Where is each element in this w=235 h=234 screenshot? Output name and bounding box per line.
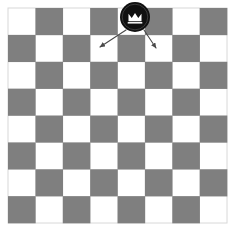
board-square-dark[interactable] xyxy=(90,116,118,143)
board-square-dark[interactable] xyxy=(145,62,173,89)
board-square-dark[interactable] xyxy=(118,89,146,116)
board-square-dark[interactable] xyxy=(63,89,91,116)
board-canvas xyxy=(0,0,235,234)
board-square-dark[interactable] xyxy=(63,196,91,223)
board-square-dark[interactable] xyxy=(63,142,91,169)
crown-base-icon xyxy=(128,22,143,24)
board-square-dark[interactable] xyxy=(90,169,118,196)
board-square-dark[interactable] xyxy=(200,116,228,143)
board-square-dark[interactable] xyxy=(145,169,173,196)
board-square-dark[interactable] xyxy=(145,116,173,143)
board-square-dark[interactable] xyxy=(8,35,36,62)
checkers-diagram: Checkers king diagonal move diagram King… xyxy=(0,0,235,234)
board-square-dark[interactable] xyxy=(172,35,200,62)
board-square-dark[interactable] xyxy=(35,116,63,143)
board-square-dark[interactable] xyxy=(200,62,228,89)
board-square-dark[interactable] xyxy=(118,196,146,223)
board-square-dark[interactable] xyxy=(172,196,200,223)
board-square-dark[interactable] xyxy=(35,62,63,89)
board-square-dark[interactable] xyxy=(90,8,118,35)
board-square-dark[interactable] xyxy=(118,142,146,169)
board-square-dark[interactable] xyxy=(35,8,63,35)
board-square-dark[interactable] xyxy=(200,8,228,35)
board-square-dark[interactable] xyxy=(172,142,200,169)
board-square-dark[interactable] xyxy=(8,89,36,116)
king-checker-piece[interactable] xyxy=(120,2,150,32)
board-square-dark[interactable] xyxy=(172,89,200,116)
board-square-dark[interactable] xyxy=(118,35,146,62)
board-square-dark[interactable] xyxy=(63,35,91,62)
board-square-dark[interactable] xyxy=(8,196,36,223)
board-square-dark[interactable] xyxy=(90,62,118,89)
board-square-dark[interactable] xyxy=(35,169,63,196)
board-square-dark[interactable] xyxy=(8,142,36,169)
board-square-dark[interactable] xyxy=(200,169,228,196)
